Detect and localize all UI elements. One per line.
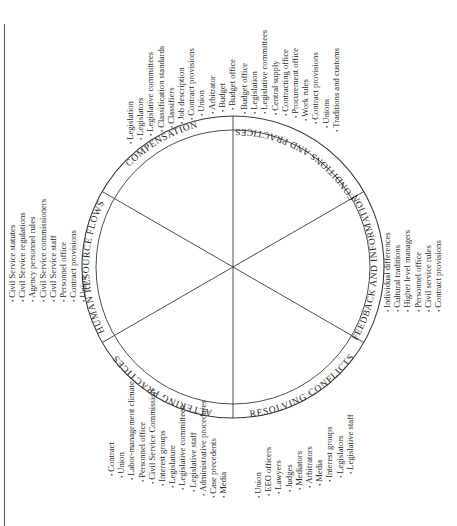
list-feedback: Individual differences Cultural traditio… (383, 230, 444, 312)
list-item: Legislative staff (346, 414, 356, 474)
list-item: Contract provisions (434, 230, 444, 312)
list-item: Traditions and customs (332, 30, 342, 132)
list-resolving: Union EEO officers Lawyers Judges Mediat… (254, 414, 356, 498)
list-conditions: Budget office Legislation Legislative co… (240, 30, 342, 116)
list-altering: Contract Union Labor-management climate … (107, 381, 229, 498)
list-item: Budget office (228, 46, 238, 110)
list-hrflows: Civil Service statutes Civil Service reg… (8, 199, 90, 302)
ring-labels: COMPENSATION CONDITIONS AND PRACTICES FE… (81, 119, 379, 419)
list-compensation: Legislation Legislators Legislative comm… (126, 46, 238, 148)
list-item: Union (79, 199, 89, 302)
list-item: Media (219, 381, 229, 498)
segment-label-conditions: CONDITIONS AND PRACTICES (234, 127, 357, 202)
